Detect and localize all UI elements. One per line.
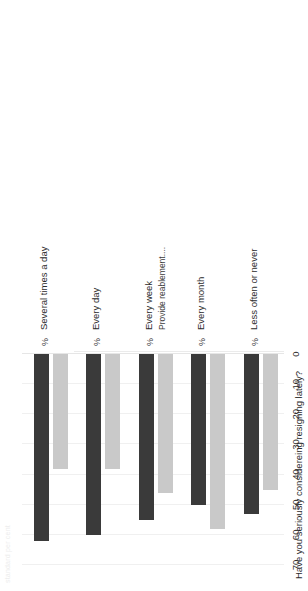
bar [263,354,278,490]
category-separator [179,351,231,352]
faint-header-note: standard per cent [4,525,11,583]
series-unit-label: % [197,338,207,346]
bar [244,354,259,514]
series-unit-label: % [92,338,102,346]
category-separator [127,351,179,352]
gridline [22,564,284,565]
series-unit-label: % [40,338,50,346]
chart-canvas: standard per cent 010203040506070 %Sever… [0,0,308,591]
category-label: Several times a day [38,247,49,330]
value-axis-title: Have you seriously considereing resignin… [293,371,304,579]
bar [191,354,206,505]
bar [34,354,49,541]
bar [53,354,68,469]
series-unit-label: % [250,338,260,346]
bar [210,354,225,529]
category-label: Less often or never [248,249,259,330]
category-group-note: Provide reablement.... [157,247,167,330]
series-unit-label: % [145,338,155,346]
category-separator [232,351,284,352]
category-label: Every day [90,288,101,330]
bar [158,354,173,493]
bar [86,354,101,535]
bar [105,354,120,469]
gridline [22,534,284,535]
plot-area [22,354,284,565]
category-label: Every week [143,281,154,330]
tick-label: 0 [290,351,301,356]
category-separator [74,351,126,352]
bar [139,354,154,520]
category-label: Every month [195,277,206,330]
